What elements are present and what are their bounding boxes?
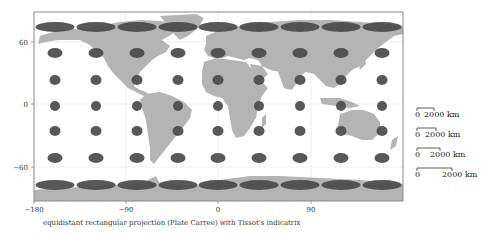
scale-bar-distance-label: 2000 km [424,110,460,119]
scale-bar-distance-label: 2000 km [425,130,461,139]
x-tick-label: −180 [24,206,43,214]
x-axis-labels: −180 −90 0 90 [24,206,315,214]
y-tick-label: 0 [24,101,28,109]
x-tick-label: −90 [119,206,134,214]
map-figure: −180 −90 0 90 60 0 −60 equidistant recta… [0,0,492,236]
y-axis-labels: 60 0 −60 [13,39,28,172]
y-tick-label: 60 [19,39,28,47]
map-area [34,12,403,201]
x-tick-label: 90 [307,206,316,214]
y-tick-label: −60 [13,164,28,172]
scale-bar-zero-label: 0 [415,130,420,139]
figure-caption: equidistant rectangular projection (Plat… [43,219,300,227]
scale-bar-zero-label: 0 [415,150,420,159]
scale-bar-zero-label: 0 [415,170,420,179]
scale-bar-distance-label: 2000 km [442,170,478,179]
scale-bar-labels: 0 2000 km 0 2000 km 0 2000 km 0 2000 km [415,110,478,179]
x-tick-label: 0 [216,206,220,214]
scale-bar-zero-label: 0 [415,110,420,119]
scale-bar-distance-label: 2000 km [430,150,466,159]
